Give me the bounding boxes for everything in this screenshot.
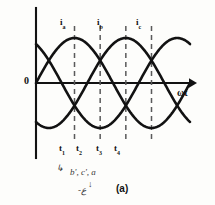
- note-scribble: -ع: [78, 186, 86, 195]
- origin-label: 0: [24, 76, 29, 86]
- time-label-t4: t4: [114, 144, 120, 155]
- time-label-t2: t2: [76, 144, 82, 155]
- note-phases: b', c', a: [70, 168, 96, 177]
- axes-group: [36, 8, 197, 158]
- x-axis-label: ωt: [177, 88, 188, 98]
- time-label-subscript: 4: [117, 150, 120, 156]
- time-label-subscript: 3: [99, 150, 102, 156]
- figure-container: iaibic t1t2t3t4 0 ωt b', c', a↳↓-ع (a): [0, 0, 215, 205]
- note-down-arrow: ↓: [88, 180, 93, 189]
- time-label-t3: t3: [96, 144, 102, 155]
- note-arrow-mark: ↳: [56, 164, 64, 173]
- figure-caption: (a): [116, 184, 128, 194]
- phase-label-subscript: a: [63, 24, 66, 30]
- phase-label-subscript: c: [139, 24, 142, 30]
- waveform-plot: [0, 0, 215, 205]
- time-label-subscript: 1: [62, 150, 65, 156]
- time-label-t1: t1: [59, 144, 65, 155]
- phase-label-i-b: ib: [97, 18, 103, 29]
- phase-label-i-a: ia: [60, 18, 66, 29]
- phase-label-i-c: ic: [136, 18, 141, 29]
- time-label-subscript: 2: [79, 150, 82, 156]
- phase-label-subscript: b: [100, 24, 103, 30]
